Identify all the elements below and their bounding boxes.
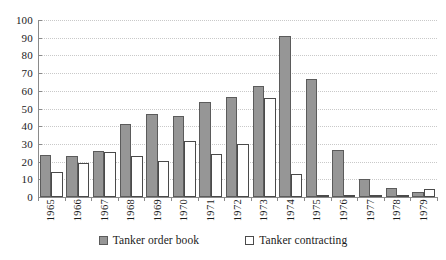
x-tick-label-1978: 1978 xyxy=(391,199,402,221)
bar-1973-series-1 xyxy=(264,98,276,197)
y-tick-label-30: 30 xyxy=(0,138,33,149)
x-tick-mark-14 xyxy=(410,197,411,201)
bar-1968-series-1 xyxy=(131,156,143,197)
bar-group-1973 xyxy=(251,20,278,197)
x-tick-mark-8 xyxy=(251,197,252,201)
bar-1969-series-1 xyxy=(158,161,170,197)
legend-swatch-icon-0 xyxy=(99,236,108,245)
bar-group-1979 xyxy=(410,20,437,197)
x-tick-mark-11 xyxy=(331,197,332,201)
bar-1976-series-0 xyxy=(332,150,344,197)
y-tick-label-90: 90 xyxy=(0,32,33,43)
bar-1970-series-1 xyxy=(184,141,196,197)
y-axis-labels: 0102030405060708090100 xyxy=(0,20,33,197)
x-tick-label-1971: 1971 xyxy=(205,199,216,221)
x-tick-label-1967: 1967 xyxy=(99,199,110,221)
bar-1972-series-1 xyxy=(237,144,249,197)
bar-group-1969 xyxy=(144,20,171,197)
x-tick-label-1969: 1969 xyxy=(152,199,163,221)
bar-group-1967 xyxy=(91,20,118,197)
bar-1979-series-1 xyxy=(424,189,436,197)
x-tick-mark-6 xyxy=(198,197,199,201)
x-tick-mark-1 xyxy=(65,197,66,201)
plot-area xyxy=(38,20,437,197)
bar-1974-series-0 xyxy=(279,36,291,197)
x-tick-mark-12 xyxy=(357,197,358,201)
x-tick-mark-4 xyxy=(144,197,145,201)
y-tick-label-40: 40 xyxy=(0,121,33,132)
y-tick-label-70: 70 xyxy=(0,68,33,79)
y-tick-mark-70 xyxy=(38,73,42,74)
x-tick-label-1966: 1966 xyxy=(72,199,83,221)
x-tick-label-1977: 1977 xyxy=(365,199,376,221)
bar-1969-series-0 xyxy=(146,114,158,197)
bar-group-1972 xyxy=(224,20,251,197)
x-axis-labels: 1965196619671968196919701971197219731974… xyxy=(38,199,437,231)
bar-group-1975 xyxy=(304,20,331,197)
bar-group-1978 xyxy=(384,20,411,197)
x-tick-mark-2 xyxy=(91,197,92,201)
bar-group-1970 xyxy=(171,20,198,197)
x-tick-label-1965: 1965 xyxy=(45,199,56,221)
bar-1973-series-0 xyxy=(253,86,265,198)
x-tick-label-1968: 1968 xyxy=(125,199,136,221)
x-tick-mark-9 xyxy=(277,197,278,201)
bar-1965-series-1 xyxy=(51,172,63,197)
x-tick-label-1974: 1974 xyxy=(285,199,296,221)
x-tick-label-1979: 1979 xyxy=(418,199,429,221)
bar-group-1976 xyxy=(331,20,358,197)
chart-legend: Tanker order bookTanker contracting xyxy=(0,234,446,246)
bar-1972-series-0 xyxy=(226,97,238,197)
y-tick-label-50: 50 xyxy=(0,103,33,114)
x-tick-label-1976: 1976 xyxy=(338,199,349,221)
tanker-bar-chart: 0102030405060708090100 19651966196719681… xyxy=(0,0,446,260)
y-tick-mark-80 xyxy=(38,55,42,56)
bar-1977-series-1 xyxy=(370,195,382,197)
x-tick-mark-10 xyxy=(304,197,305,201)
x-tick-label-1975: 1975 xyxy=(311,199,322,221)
bar-1978-series-1 xyxy=(397,195,409,197)
bar-1968-series-0 xyxy=(120,124,132,197)
bar-1976-series-1 xyxy=(344,195,356,197)
bar-1967-series-1 xyxy=(104,152,116,197)
y-tick-mark-30 xyxy=(38,144,42,145)
legend-label-0: Tanker order book xyxy=(113,234,199,246)
legend-swatch-icon-1 xyxy=(245,236,254,245)
bar-1967-series-0 xyxy=(93,151,105,197)
gridline-0 xyxy=(38,197,437,198)
x-tick-label-1972: 1972 xyxy=(232,199,243,221)
bar-group-1966 xyxy=(65,20,92,197)
x-tick-mark-0 xyxy=(38,197,39,201)
x-tick-mark-end xyxy=(437,197,438,201)
x-tick-mark-7 xyxy=(224,197,225,201)
bar-1975-series-1 xyxy=(317,195,329,197)
legend-entry-1: Tanker contracting xyxy=(245,234,347,246)
bars-layer xyxy=(38,20,437,197)
bar-1977-series-0 xyxy=(359,179,371,197)
y-tick-label-80: 80 xyxy=(0,50,33,61)
y-tick-mark-90 xyxy=(38,38,42,39)
bar-group-1974 xyxy=(277,20,304,197)
bar-1966-series-0 xyxy=(66,156,78,197)
bar-1978-series-0 xyxy=(386,188,398,197)
bar-group-1968 xyxy=(118,20,145,197)
x-tick-mark-5 xyxy=(171,197,172,201)
y-tick-mark-60 xyxy=(38,91,42,92)
y-tick-mark-50 xyxy=(38,109,42,110)
x-tick-mark-3 xyxy=(118,197,119,201)
x-tick-mark-13 xyxy=(384,197,385,201)
bar-1974-series-1 xyxy=(291,174,303,197)
legend-entry-0: Tanker order book xyxy=(99,234,199,246)
bar-1971-series-1 xyxy=(211,154,223,197)
bar-1965-series-0 xyxy=(40,155,52,197)
bar-group-1971 xyxy=(198,20,225,197)
bar-1979-series-0 xyxy=(412,192,424,197)
bar-1966-series-1 xyxy=(78,163,90,197)
y-tick-label-100: 100 xyxy=(0,15,33,26)
y-tick-label-10: 10 xyxy=(0,174,33,185)
y-tick-label-0: 0 xyxy=(0,192,33,203)
bar-1970-series-0 xyxy=(173,116,185,197)
bar-1975-series-0 xyxy=(306,79,318,197)
y-tick-mark-100 xyxy=(38,20,42,21)
y-tick-label-60: 60 xyxy=(0,85,33,96)
